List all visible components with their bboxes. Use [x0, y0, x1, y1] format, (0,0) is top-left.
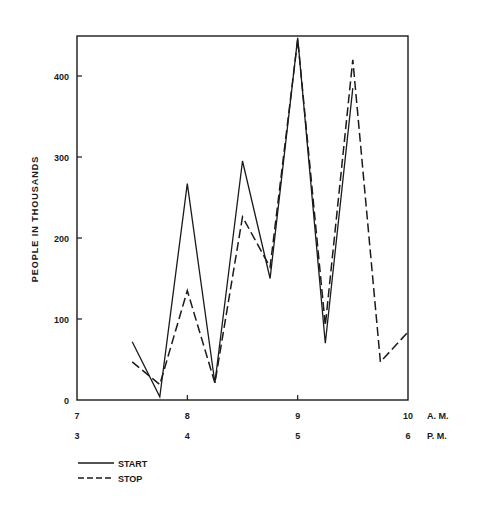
am-suffix-label: A. M.: [427, 411, 449, 421]
pm-suffix-label: P. M.: [427, 431, 447, 441]
series-stop-line: [132, 40, 408, 385]
legend-stop-label: STOP: [118, 474, 142, 484]
x-tick-label-am: 8: [185, 411, 190, 421]
legend-start-label: START: [118, 459, 148, 469]
x-tick-label-pm: 4: [185, 431, 190, 441]
y-axis-label: PEOPLE IN THOUSANDS: [30, 156, 40, 283]
y-tick-label: 300: [54, 153, 69, 163]
y-axis-ticks: 0100200300400: [54, 72, 82, 406]
y-tick-label: 0: [64, 396, 69, 406]
legend: START STOP: [78, 459, 148, 484]
x-axis-ticks: 738495106: [74, 395, 413, 441]
x-tick-label-am: 7: [74, 411, 79, 421]
x-tick-label-pm: 5: [295, 431, 300, 441]
x-tick-label-am: 10: [403, 411, 413, 421]
x-tick-label-pm: 6: [405, 431, 410, 441]
line-chart: PEOPLE IN THOUSANDS 0100200300400 738495…: [0, 0, 479, 510]
x-tick-label-am: 9: [295, 411, 300, 421]
y-tick-label: 400: [54, 72, 69, 82]
y-tick-label: 200: [54, 234, 69, 244]
x-tick-label-pm: 3: [74, 431, 79, 441]
y-tick-label: 100: [54, 315, 69, 325]
